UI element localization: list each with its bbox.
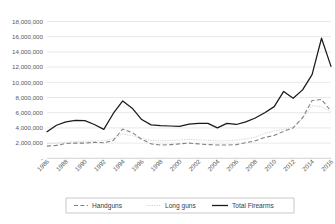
xtick-label: 1988 (54, 157, 69, 172)
gridlines (47, 22, 331, 159)
legend-label-handguns[interactable]: Handguns (92, 202, 123, 210)
xtick-label: 1994 (111, 157, 126, 172)
line-chart: 18,000,000 16,000,000 14,000,000 12,000,… (0, 0, 335, 224)
xtick-label: 2002 (187, 157, 202, 172)
xtick-label: 1992 (92, 157, 107, 172)
xtick-label: 1986 (36, 157, 51, 172)
ytick-label: 4,000,000 (15, 124, 43, 131)
series-line-total-firearms (47, 38, 331, 131)
xtick-label: 2006 (225, 157, 240, 172)
xtick-label: 2014 (301, 157, 316, 172)
xtick-label: 1990 (73, 157, 88, 172)
legend: Handguns Long guns Total Firearms (66, 198, 294, 213)
data-series-group (47, 38, 331, 146)
legend-label-long-guns[interactable]: Long guns (165, 202, 197, 210)
y-axis-tick-labels: 18,000,000 16,000,000 14,000,000 12,000,… (12, 18, 44, 162)
ytick-label: 6,000,000 (15, 109, 43, 116)
xtick-label: 2000 (168, 157, 183, 172)
xtick-label: 2012 (282, 157, 297, 172)
ytick-label: 14,000,000 (12, 48, 44, 55)
ytick-label: 18,000,000 (12, 18, 44, 25)
xtick-label: 1998 (149, 157, 164, 172)
xtick-label: 2008 (244, 157, 259, 172)
ytick-label: 12,000,000 (12, 63, 44, 70)
xtick-label: 2004 (206, 157, 221, 172)
xtick-label: 2016 (320, 157, 335, 172)
ytick-label: 16,000,000 (12, 33, 44, 40)
x-axis-tick-labels: 1986 1988 1990 1992 1994 1996 1998 2000 … (36, 157, 335, 172)
xtick-label: 2010 (263, 157, 278, 172)
ytick-label: 2,000,000 (15, 139, 43, 146)
chart-container: 18,000,000 16,000,000 14,000,000 12,000,… (0, 0, 335, 224)
legend-label-total-firearms[interactable]: Total Firearms (232, 202, 274, 209)
series-line-long-guns (47, 106, 331, 144)
ytick-label: 10,000,000 (12, 79, 44, 86)
ytick-label: 8,000,000 (15, 94, 43, 101)
xtick-label: 1996 (130, 157, 145, 172)
